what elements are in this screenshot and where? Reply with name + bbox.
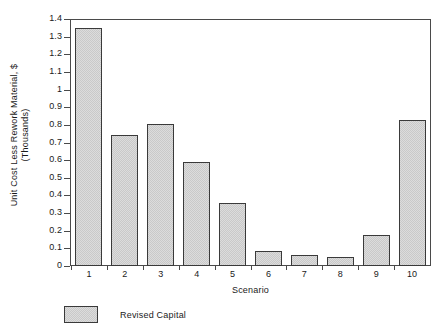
bar	[75, 28, 102, 266]
bar	[111, 135, 138, 266]
x-axis-tick-mark	[71, 266, 72, 270]
y-axis-tick-label: 0.1	[28, 243, 62, 252]
legend-label-revised-capital: Revised Capital	[120, 310, 186, 320]
legend-swatch-revised-capital	[64, 306, 98, 323]
y-axis-tick-label: 0.9	[28, 102, 62, 111]
x-axis-tick-label: 4	[182, 269, 212, 279]
bar	[219, 203, 246, 266]
x-axis-tick-label: 6	[253, 269, 283, 279]
x-axis-tick-label: 3	[146, 269, 176, 279]
y-axis-title-line-1: Unit Cost Less Rework Material, $	[9, 64, 20, 207]
y-axis-tick-label: 1.2	[28, 49, 62, 58]
x-axis-tick-label: 8	[325, 269, 355, 279]
bar	[327, 257, 354, 266]
y-axis-tick-label: 0.7	[28, 138, 62, 147]
x-axis-tick-mark	[286, 266, 287, 270]
x-axis-tick-mark	[143, 266, 144, 270]
y-axis-tick-label: 0.2	[28, 226, 62, 235]
y-axis-tick-label: 1.3	[28, 32, 62, 41]
x-axis-tick-mark	[107, 266, 108, 270]
bar-chart-figure: Unit Cost Less Rework Material, $ (Thous…	[0, 0, 445, 333]
x-axis-tick-mark	[322, 266, 323, 270]
y-axis-tick-label: 1.4	[28, 14, 62, 23]
bar	[399, 120, 426, 266]
bar	[291, 255, 318, 266]
bar	[147, 124, 174, 266]
y-axis-tick-label: 1.1	[28, 67, 62, 76]
x-axis-tick-label: 2	[110, 269, 140, 279]
x-axis-tick-mark	[215, 266, 216, 270]
y-axis-tick-label: 0.8	[28, 120, 62, 129]
y-axis-tick-label: 0.3	[28, 208, 62, 217]
y-axis-tick-label: 0.6	[28, 155, 62, 164]
y-axis-tick-label: 0.5	[28, 173, 62, 182]
x-axis-tick-mark	[179, 266, 180, 270]
legend: Revised Capital	[64, 306, 186, 323]
x-axis-tick-mark	[394, 266, 395, 270]
bar-series-revised-capital	[71, 20, 430, 266]
bar	[183, 162, 210, 266]
x-axis-title: Scenario	[70, 285, 431, 295]
bar	[363, 235, 390, 266]
x-axis-tick-label: 10	[397, 269, 427, 279]
x-axis-tick-label: 5	[218, 269, 248, 279]
y-axis-tick-label: 0	[28, 261, 62, 270]
y-axis-tick-label: 1	[28, 85, 62, 94]
x-axis-tick-mark	[358, 266, 359, 270]
x-axis-tick-label: 7	[289, 269, 319, 279]
y-axis-tick-mark	[64, 266, 70, 267]
x-axis-tick-mark	[251, 266, 252, 270]
y-axis-tick-label: 0.4	[28, 190, 62, 199]
bar	[255, 251, 282, 266]
x-axis-tick-label: 1	[74, 269, 104, 279]
x-axis-tick-label: 9	[361, 269, 391, 279]
